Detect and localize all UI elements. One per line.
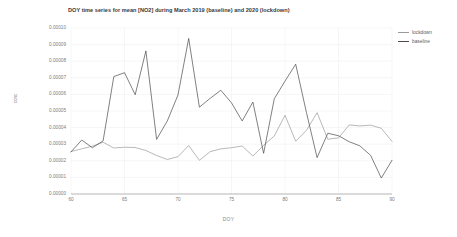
x-axis-label: DOY: [0, 216, 457, 222]
legend-line-icon-lockdown: [398, 32, 409, 33]
legend-item-baseline[interactable]: baseline: [398, 37, 432, 46]
chart-legend: lockdown baseline: [398, 28, 432, 46]
legend-item-lockdown[interactable]: lockdown: [398, 28, 432, 37]
chart-container: DOY time series for mean [NO2] during Ma…: [0, 0, 457, 237]
legend-label-lockdown: lockdown: [412, 30, 432, 35]
plot-area: [0, 0, 457, 237]
legend-line-icon-baseline: [398, 41, 409, 42]
legend-label-baseline: baseline: [412, 39, 430, 44]
